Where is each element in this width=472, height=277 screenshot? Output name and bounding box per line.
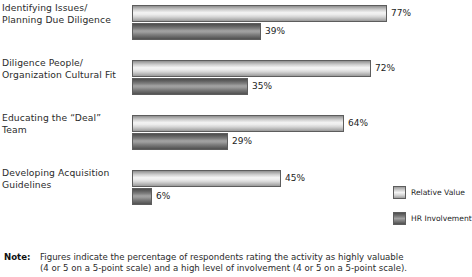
bar-row-relative-value: 45%	[132, 170, 472, 187]
bar-row-hr-involvement: 35%	[132, 78, 472, 95]
bar-row-relative-value: 77%	[132, 5, 472, 22]
bar-value-hr-involvement: 29%	[232, 135, 252, 147]
bar-relative-value	[132, 115, 344, 132]
category-label: Identifying Issues/ Planning Due Diligen…	[2, 2, 128, 25]
legend-label: Relative Value	[411, 187, 465, 198]
bar-hr-involvement	[132, 23, 261, 40]
legend-label: HR Involvement	[411, 213, 472, 224]
bar-pair: 77% 39%	[132, 2, 472, 46]
note-body: Figures indicate the percentage of respo…	[40, 252, 470, 274]
legend-item-hr-involvement: HR Involvement	[393, 212, 472, 226]
chart-group-identifying-issues: Identifying Issues/ Planning Due Diligen…	[0, 2, 472, 57]
bar-hr-involvement	[132, 133, 228, 150]
category-label-line2: Guidelines	[2, 179, 128, 191]
category-label-line1: Identifying Issues/	[2, 2, 128, 14]
legend-swatch-icon	[393, 186, 406, 199]
category-label: Diligence People/ Organization Cultural …	[2, 57, 128, 80]
bar-relative-value	[132, 170, 281, 187]
bar-value-hr-involvement: 35%	[252, 80, 272, 92]
category-label-line1: Diligence People/	[2, 57, 128, 69]
bar-row-hr-involvement: 39%	[132, 23, 472, 40]
bar-pair: 72% 35%	[132, 57, 472, 101]
bar-hr-involvement	[132, 78, 248, 95]
bar-relative-value	[132, 5, 387, 22]
bar-value-relative-value: 45%	[285, 172, 305, 184]
chart-group-diligence-people: Diligence People/ Organization Cultural …	[0, 57, 472, 112]
bar-relative-value	[132, 60, 371, 77]
chart-legend: Relative Value HR Involvement	[393, 186, 472, 238]
horizontal-bar-chart: Identifying Issues/ Planning Due Diligen…	[0, 0, 472, 277]
note-line2: (4 or 5 on a 5-point scale) and a high l…	[40, 263, 470, 274]
bar-row-hr-involvement: 29%	[132, 133, 472, 150]
category-label-line1: Educating the “Deal”	[2, 112, 128, 124]
note-line1: Figures indicate the percentage of respo…	[40, 252, 470, 263]
note-label: Note:	[4, 252, 30, 262]
category-label: Educating the “Deal” Team	[2, 112, 128, 135]
category-label: Developing Acquisition Guidelines	[2, 167, 128, 190]
legend-item-relative-value: Relative Value	[393, 186, 472, 200]
bar-hr-involvement	[132, 188, 152, 205]
bar-value-relative-value: 64%	[348, 117, 368, 129]
legend-swatch-icon	[393, 212, 406, 225]
bar-value-relative-value: 77%	[391, 7, 411, 19]
category-label-line2: Planning Due Diligence	[2, 14, 128, 26]
bar-pair: 64% 29%	[132, 112, 472, 156]
category-label-line2: Team	[2, 124, 128, 136]
bar-row-relative-value: 64%	[132, 115, 472, 132]
bar-value-hr-involvement: 6%	[156, 190, 170, 202]
bar-value-relative-value: 72%	[375, 62, 395, 74]
chart-group-educating-deal-team: Educating the “Deal” Team 64% 29%	[0, 112, 472, 167]
bar-row-relative-value: 72%	[132, 60, 472, 77]
bar-value-hr-involvement: 39%	[265, 25, 285, 37]
category-label-line1: Developing Acquisition	[2, 167, 128, 179]
category-label-line2: Organization Cultural Fit	[2, 69, 128, 81]
